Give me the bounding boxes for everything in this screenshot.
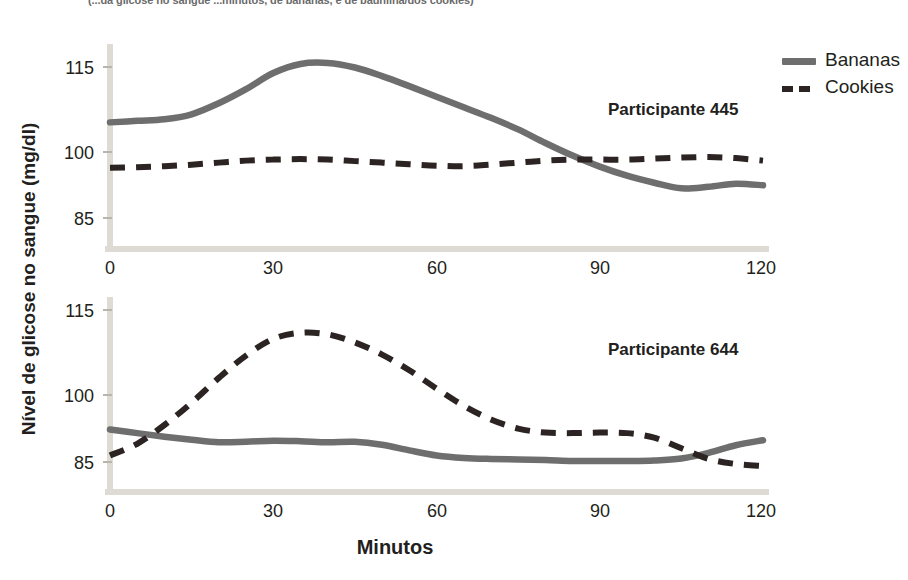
series-line-cookies-panel-445: [110, 157, 763, 168]
chart-canvas: [0, 0, 908, 580]
chart-figure: (...da glicose no sangue ...minutos, de …: [0, 0, 908, 580]
axes-panel-445: [103, 47, 766, 249]
series-line-bananas-panel-644: [110, 430, 763, 461]
series-line-cookies-panel-644: [110, 332, 763, 466]
series-line-bananas-panel-445: [110, 63, 763, 189]
